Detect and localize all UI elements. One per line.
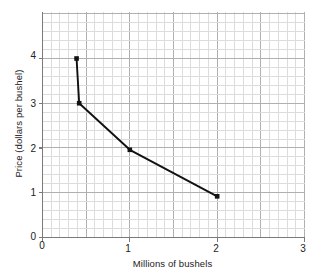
y-tick-label-0: 0: [22, 231, 36, 242]
data-point-marker: [74, 56, 79, 61]
data-point-marker: [77, 101, 82, 106]
y-axis-label: Price (dollars per bushel): [13, 49, 24, 199]
chart-container: Price (dollars per bushel) Millions of b…: [0, 0, 322, 277]
x-tick-label-3: 3: [296, 243, 310, 254]
x-tick-label-0: 0: [35, 240, 49, 251]
x-axis-label: Millions of bushels: [42, 258, 303, 269]
y-tick-label-3: 3: [22, 98, 36, 109]
data-point-marker: [215, 194, 220, 199]
y-tick-label-2: 2: [22, 143, 36, 154]
x-tick-label-1: 1: [121, 243, 135, 254]
y-tick-label-1: 1: [22, 187, 36, 198]
plot-area: [0, 0, 322, 277]
y-tick-label-4: 4: [22, 50, 36, 61]
x-tick-label-2: 2: [209, 243, 223, 254]
data-point-marker: [128, 147, 133, 152]
